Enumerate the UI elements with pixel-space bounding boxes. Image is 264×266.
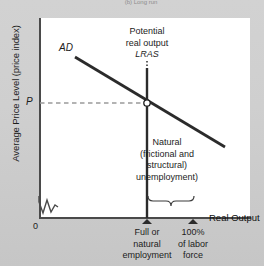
chart-figure: (b) Long run Average Price Level (price …: [0, 0, 264, 266]
unemployment-line-4: unemployment): [127, 172, 207, 184]
origin-label: 0: [33, 221, 38, 231]
unemployment-brace: [148, 196, 194, 206]
natural-unemployment-annotation: Natural (frictional and structural) unem…: [127, 137, 207, 183]
potential-output-annotation: Potential real output LRAS: [107, 26, 187, 61]
unemployment-line-3: structural): [127, 160, 207, 172]
unemployment-line-2: (frictional and: [127, 149, 207, 161]
potential-output-line-2: real output: [107, 38, 187, 50]
lras-label: LRAS: [107, 49, 187, 61]
axis-break-symbol: [39, 196, 58, 213]
labor-force-line-1: 100%: [163, 227, 223, 239]
full-employment-marker: [142, 219, 152, 224]
potential-output-line-1: Potential: [107, 26, 187, 38]
full-labor-force-marker: [188, 219, 198, 224]
ad-curve-label: AD: [55, 42, 77, 54]
unemployment-line-1: Natural: [127, 137, 207, 149]
x-axis-label: Real Output: [209, 212, 260, 223]
equilibrium-point-marker: [144, 100, 150, 106]
labor-force-line-3: force: [163, 250, 223, 262]
labor-force-label: 100% of labor force: [163, 227, 223, 262]
price-level-label: P: [26, 96, 33, 107]
labor-force-line-2: of labor: [163, 239, 223, 251]
